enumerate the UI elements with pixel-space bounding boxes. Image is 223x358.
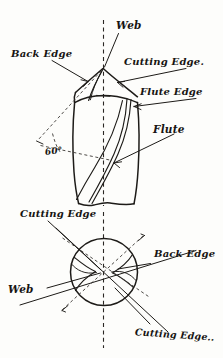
flute-edge-line-inner xyxy=(89,99,127,202)
arrowhead-back-edge-top xyxy=(81,80,88,87)
label-back-edge-top: Back Edge xyxy=(11,49,72,59)
body-break-line xyxy=(79,203,134,206)
leader-back-edge-top xyxy=(52,61,88,82)
leader-flute-edge xyxy=(134,99,196,107)
label-web-top: Web xyxy=(116,20,142,31)
label-back-edge-bottom: Back Edge xyxy=(154,249,215,259)
leader-web-top xyxy=(105,34,119,68)
label-cutting-edge-top: Cutting Edge. xyxy=(124,57,204,67)
label-cutting-edge-middle: Cutting Edge xyxy=(20,209,96,219)
end-view-construction-diagonal-b xyxy=(62,236,143,310)
drawing-sheet: Web Back Edge Cutting Edge. Flute Edge F… xyxy=(0,0,223,358)
leader-cutting-edge-mid xyxy=(48,221,101,270)
point-angle-vertex-tick xyxy=(37,141,44,144)
cone-right-flank xyxy=(103,69,137,97)
arrowhead-flute xyxy=(114,162,122,168)
cutting-lip-curve xyxy=(75,96,138,103)
point-heel-left xyxy=(74,93,75,103)
leader-cutting-edge-bottom xyxy=(115,288,150,324)
label-flute-edge: Flute Edge xyxy=(140,87,203,97)
cone-left-flank xyxy=(76,69,103,93)
point-angle-ray-left xyxy=(38,71,102,141)
label-flute: Flute xyxy=(153,124,185,135)
leader-flute xyxy=(114,134,174,163)
label-web-bottom: Web xyxy=(8,284,34,295)
leader-cutting-edge-top xyxy=(118,69,187,83)
